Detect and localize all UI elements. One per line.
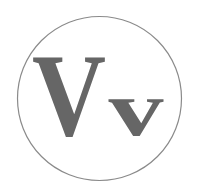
logo-uppercase-v: V [32, 30, 106, 161]
logo-lowercase-v: v [109, 65, 164, 152]
vv-logo: V v [0, 0, 197, 190]
